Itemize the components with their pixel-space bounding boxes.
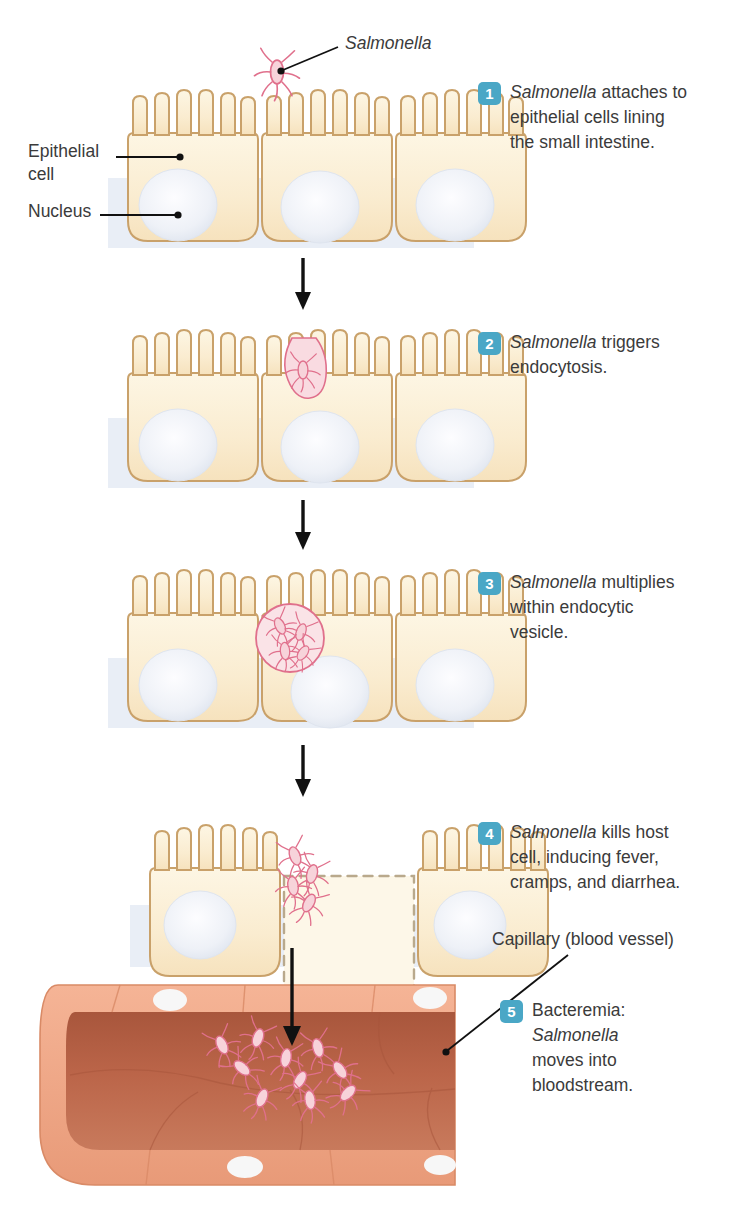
step-1-rest1: attaches to: [597, 82, 687, 102]
step-3-rest3: vesicle.: [510, 622, 568, 642]
arrow-2-3: [295, 500, 311, 550]
step-4-rest3: cramps, and diarrhea.: [510, 872, 680, 892]
step-3-rest2: within endocytic: [510, 597, 634, 617]
step-2: 2 Salmonella triggers endocytosis.: [478, 330, 660, 380]
panel-3-multiplication: [128, 570, 526, 728]
leader-salmonella: [277, 47, 338, 75]
label-epithelial-cell: Epithelial cell: [28, 140, 99, 186]
step-4: 4 Salmonella kills host cell, inducing f…: [478, 820, 680, 895]
step-5-rest2: moves into: [532, 1050, 617, 1070]
step-4-text: Salmonella kills host cell, inducing fev…: [510, 820, 680, 895]
step-2-text: Salmonella triggers endocytosis.: [510, 330, 660, 380]
step-2-rest1: triggers: [597, 332, 660, 352]
step-1-rest2: epithelial cells lining: [510, 107, 665, 127]
step-3-term: Salmonella: [510, 572, 597, 592]
step-4-term: Salmonella: [510, 822, 597, 842]
label-nucleus: Nucleus: [28, 200, 91, 223]
step-3-badge: 3: [478, 572, 501, 595]
nucleus-shape: [139, 649, 494, 728]
figure-salmonella-infection: Salmonella Epithelial cell Nucleus Capil…: [0, 0, 749, 1222]
step-5-text: Bacteremia: Salmonella moves into bloods…: [532, 998, 633, 1098]
panel-5-capillary: [40, 985, 456, 1185]
step-1-badge: 1: [478, 82, 501, 105]
step-2-rest2: endocytosis.: [510, 357, 607, 377]
step-5-rest3: bloodstream.: [532, 1075, 633, 1095]
label-capillary: Capillary (blood vessel): [492, 928, 674, 951]
step-5-badge: 5: [500, 1000, 523, 1023]
step-1-text: Salmonella attaches to epithelial cells …: [510, 80, 687, 155]
step-3-rest1: multiplies: [597, 572, 675, 592]
step-1: 1 Salmonella attaches to epithelial cell…: [478, 80, 687, 155]
nucleus-shape: [139, 409, 494, 483]
step-5-term: Salmonella: [532, 1025, 619, 1045]
arrow-3-4: [295, 745, 311, 797]
step-4-badge: 4: [478, 822, 501, 845]
arrow-1-2: [295, 258, 311, 310]
step-3: 3 Salmonella multiplies within endocytic…: [478, 570, 674, 645]
panel-2-endocytosis: [128, 330, 526, 483]
step-5-rest0: Bacteremia:: [532, 1000, 625, 1020]
step-1-rest3: the small intestine.: [510, 132, 655, 152]
step-4-rest2: cell, inducing fever,: [510, 847, 659, 867]
label-salmonella: Salmonella: [345, 32, 432, 55]
step-5: 5 Bacteremia: Salmonella moves into bloo…: [500, 998, 633, 1098]
step-4-rest1: kills host: [597, 822, 669, 842]
step-2-badge: 2: [478, 332, 501, 355]
step-2-term: Salmonella: [510, 332, 597, 352]
step-1-term: Salmonella: [510, 82, 597, 102]
nucleus-shape: [139, 169, 494, 243]
panel-1-attachment: [128, 48, 526, 243]
step-3-text: Salmonella multiplies within endocytic v…: [510, 570, 674, 645]
